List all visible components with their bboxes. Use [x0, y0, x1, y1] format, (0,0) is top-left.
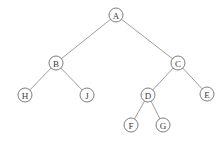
tree-node-a[interactable]: A: [109, 8, 123, 22]
node-label-d: D: [145, 91, 152, 101]
tree-node-e[interactable]: E: [200, 87, 214, 101]
tree-node-c[interactable]: C: [171, 56, 185, 70]
node-label-f: F: [128, 121, 133, 131]
tree-edge-b-j: [61, 68, 82, 90]
tree-node-h[interactable]: H: [18, 88, 32, 102]
tree-node-d[interactable]: D: [141, 88, 155, 102]
node-label-g: G: [160, 121, 167, 131]
tree-edge-d-g: [151, 101, 160, 118]
tree-edge-a-c: [122, 19, 173, 58]
tree-edge-a-b: [61, 19, 110, 58]
tree-graphic: ABCHJDEFG: [0, 0, 224, 145]
node-label-e: E: [204, 90, 210, 100]
binary-tree-diagram: ABCHJDEFG: [0, 0, 224, 145]
tree-edge-c-d: [153, 68, 173, 90]
tree-node-j[interactable]: J: [80, 88, 94, 102]
tree-edge-c-e: [183, 68, 202, 89]
tree-node-f[interactable]: F: [124, 118, 138, 132]
node-label-j: J: [85, 91, 89, 101]
tree-node-b[interactable]: B: [49, 56, 63, 70]
tree-edge-d-f: [134, 101, 144, 119]
node-label-h: H: [22, 91, 29, 101]
tree-node-g[interactable]: G: [156, 118, 170, 132]
tree-edge-b-h: [30, 68, 51, 90]
node-label-a: A: [113, 11, 120, 21]
node-label-c: C: [175, 59, 181, 69]
node-label-b: B: [53, 59, 59, 69]
